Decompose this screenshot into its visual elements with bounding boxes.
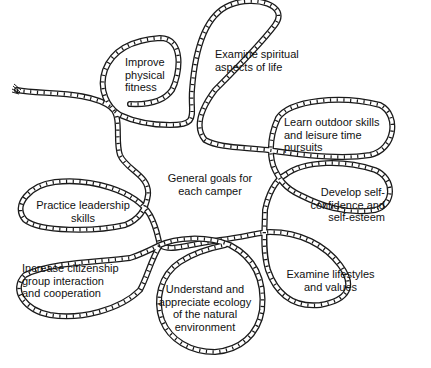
goal-spiritual: Examine spiritual aspects of life <box>215 48 325 73</box>
camper-goals-rope-diagram: General goals for each camper Improve ph… <box>0 0 431 368</box>
goal-lifestyles-values: Examine lifestyles and values <box>283 268 378 293</box>
goal-outdoor-skills: Learn outdoor skills and leisure time pu… <box>284 116 399 154</box>
goal-self-confidence: Develop self- confidence and self-esteem <box>300 186 385 224</box>
goal-ecology: Understand and appreciate ecology of the… <box>155 283 255 333</box>
goal-leadership: Practice leadership skills <box>28 199 138 224</box>
goal-physical-fitness: Improve physical fitness <box>125 56 185 94</box>
center-label: General goals for each camper <box>145 172 275 197</box>
goal-citizenship: Increase citizenship group interaction a… <box>22 262 142 300</box>
